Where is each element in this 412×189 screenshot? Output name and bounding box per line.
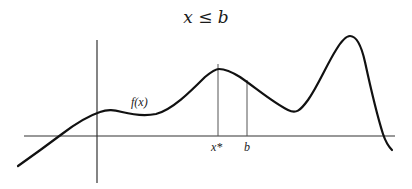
x-star-label: x* [211,140,222,155]
function-plot [0,0,412,189]
function-curve [18,36,392,166]
function-label: f(x) [131,95,148,110]
b-label: b [244,140,250,155]
diagram-canvas: x ≤ b f(x) x* b [0,0,412,189]
